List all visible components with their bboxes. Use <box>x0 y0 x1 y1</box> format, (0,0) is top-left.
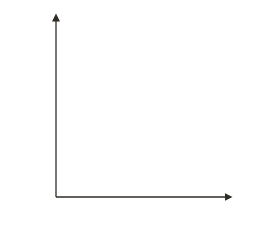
medication-decay-chart <box>0 0 261 241</box>
graph-figure <box>0 0 261 241</box>
